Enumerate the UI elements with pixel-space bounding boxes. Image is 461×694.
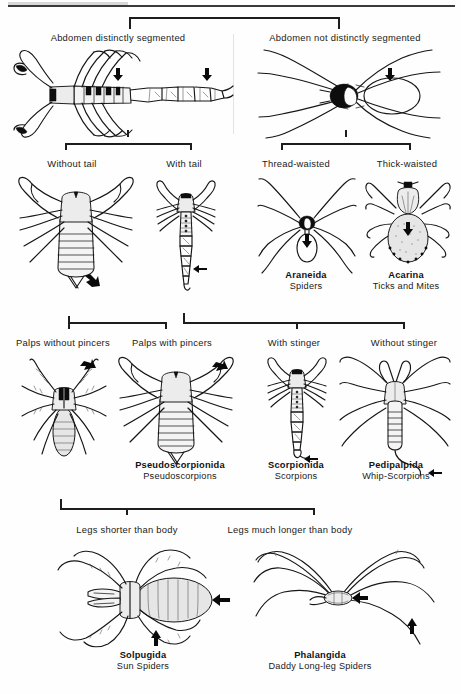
bracket-end-up-left xyxy=(183,313,185,322)
figure-scorpionida xyxy=(266,358,328,464)
bracket-bar xyxy=(129,17,340,19)
bracket-tier-2-right xyxy=(281,137,411,149)
taxon-acarina: Acarina Ticks and Mites xyxy=(373,270,439,292)
figure-pseudoscorpionida xyxy=(114,356,238,462)
bracket-tick-left xyxy=(281,143,283,150)
taxon-scorpionida: Scorpionida Scorpions xyxy=(268,460,324,482)
bracket-stem-up xyxy=(127,130,129,137)
taxon-scientific-name: Acarina xyxy=(373,270,439,281)
bracket-tier-2-left xyxy=(65,137,192,149)
bracket-tick-right xyxy=(409,143,411,150)
arrow-marker xyxy=(302,234,312,248)
taxon-scientific-name: Pseudoscorpionida xyxy=(135,460,225,471)
label-without-stinger: Without stinger xyxy=(371,337,437,348)
bracket-tick-right xyxy=(403,322,405,329)
figure-spider-unsegmented xyxy=(252,46,456,138)
bracket-end-up-left xyxy=(60,499,62,508)
taxon-common-name: Daddy Long-leg Spiders xyxy=(269,661,372,672)
taxon-phalangida: Phalangida Daddy Long-leg Spiders xyxy=(269,650,372,672)
arrow-marker xyxy=(113,68,212,81)
bracket-tier-3-right xyxy=(183,313,405,329)
taxon-common-name: Scorpions xyxy=(268,471,324,482)
taxon-common-name: Spiders xyxy=(285,281,326,292)
figure-scorpion-segmented xyxy=(12,46,234,138)
figure-without-tail xyxy=(16,176,136,296)
bracket-tier-4 xyxy=(60,499,315,515)
bracket-bar xyxy=(68,322,167,324)
bracket-tick-left xyxy=(68,316,70,329)
bracket-tick-right xyxy=(190,143,192,150)
taxon-pseudoscorpionida: Pseudoscorpionida Pseudoscorpions xyxy=(135,460,225,482)
taxon-scientific-name: Solpugida xyxy=(117,650,169,661)
figure-acarina xyxy=(364,180,452,272)
bracket-tick-right xyxy=(313,508,315,515)
figure-araneida xyxy=(258,178,356,274)
arrow-marker xyxy=(85,274,100,287)
top-horizontal-rule xyxy=(8,5,455,7)
label-thick-waisted: Thick-waisted xyxy=(377,158,438,169)
taxon-scientific-name: Scorpionida xyxy=(268,460,324,471)
taxon-common-name: Whip-Scorpions xyxy=(362,471,430,482)
taxon-pedipalpida: Pedipalpida Whip-Scorpions xyxy=(362,460,430,482)
figure-solpugida xyxy=(48,548,238,648)
label-legs-much-longer-than-body: Legs much longer than body xyxy=(228,524,353,535)
label-abdomen-distinctly-segmented: Abdomen distinctly segmented xyxy=(51,32,186,43)
bracket-stem-up xyxy=(345,130,347,137)
bracket-tier-3-left xyxy=(68,316,167,329)
bracket-tick-right xyxy=(165,322,167,329)
bracket-tick-right xyxy=(338,17,340,29)
label-thread-waisted: Thread-waisted xyxy=(262,158,330,169)
taxon-common-name: Pseudoscorpions xyxy=(135,471,225,482)
bracket-tier-1 xyxy=(129,17,340,29)
taxon-common-name: Sun Spiders xyxy=(117,661,169,672)
bracket-stem-middle xyxy=(296,322,298,329)
taxon-scientific-name: Phalangida xyxy=(269,650,372,661)
identification-key-page: Abdomen distinctly segmented Abdomen not… xyxy=(0,0,461,694)
figure-phalangida xyxy=(248,548,448,648)
taxon-scientific-name: Pedipalpida xyxy=(362,460,430,471)
label-without-tail: Without tail xyxy=(47,158,96,169)
bracket-stem-middle xyxy=(126,508,128,515)
figure-palps-without-pincers xyxy=(18,356,110,462)
arrow-marker xyxy=(385,68,395,81)
bracket-bar xyxy=(183,322,405,324)
taxon-solpugida: Solpugida Sun Spiders xyxy=(117,650,169,672)
bracket-tick-left xyxy=(129,17,131,29)
label-legs-shorter-than-body: Legs shorter than body xyxy=(76,524,177,535)
arrow-marker xyxy=(352,592,417,634)
label-with-tail: With tail xyxy=(166,158,202,169)
taxon-scientific-name: Araneida xyxy=(285,270,326,281)
bracket-bar xyxy=(281,143,411,145)
label-abdomen-not-distinctly-segmented: Abdomen not distinctly segmented xyxy=(269,32,420,43)
bracket-bar xyxy=(65,143,192,145)
label-with-stinger: With stinger xyxy=(268,337,321,348)
bracket-bar xyxy=(60,508,315,510)
taxon-common-name: Ticks and Mites xyxy=(373,281,439,292)
bracket-tick-left xyxy=(65,143,67,150)
arrow-marker xyxy=(193,265,207,273)
label-palps-with-pincers: Palps with pincers xyxy=(132,337,212,348)
figure-with-tail xyxy=(155,180,217,296)
taxon-araneida: Araneida Spiders xyxy=(285,270,326,292)
label-palps-without-pincers: Palps without pincers xyxy=(16,337,110,348)
